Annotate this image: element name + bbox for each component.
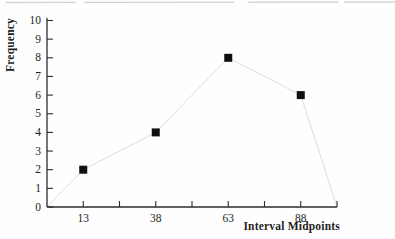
scan-artifact-line bbox=[6, 2, 395, 3]
x-tick-label: 13 bbox=[78, 212, 90, 224]
y-tick-label: 5 bbox=[35, 107, 41, 119]
x-axis-title: Interval Midpoints bbox=[243, 220, 340, 232]
y-tick-label: 7 bbox=[35, 70, 41, 82]
y-tick-label: 4 bbox=[35, 126, 41, 138]
frequency-polygon-figure: 01234567891013386388 Frequency Interval … bbox=[0, 0, 395, 239]
y-axis-title: Frequency bbox=[4, 18, 16, 72]
y-tick-label: 1 bbox=[35, 182, 41, 194]
y-tick-label: 8 bbox=[35, 51, 41, 63]
chart-canvas: 01234567891013386388 bbox=[0, 0, 395, 239]
y-tick-label: 2 bbox=[35, 163, 41, 175]
y-tick-label: 9 bbox=[35, 33, 41, 45]
connector-polyline bbox=[47, 58, 337, 207]
data-point-marker bbox=[224, 54, 232, 62]
x-tick-label: 63 bbox=[223, 212, 235, 224]
data-point-marker bbox=[152, 128, 160, 136]
y-tick-label: 0 bbox=[35, 201, 41, 213]
data-point-marker bbox=[79, 166, 87, 174]
data-point-marker bbox=[297, 91, 305, 99]
y-tick-label: 3 bbox=[35, 145, 41, 157]
y-tick-label: 10 bbox=[30, 14, 42, 26]
x-tick-label: 38 bbox=[150, 212, 162, 224]
y-tick-label: 6 bbox=[35, 89, 41, 101]
